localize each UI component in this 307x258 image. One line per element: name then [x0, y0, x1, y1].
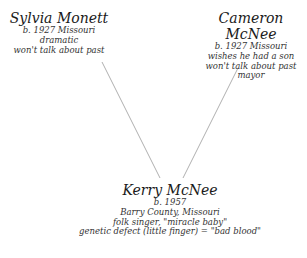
person-detail: genetic defect (little finger) = "bad bl…: [70, 227, 270, 237]
edge-cameron-to-kerry: [183, 68, 238, 178]
person-node-sylvia: Sylvia Monett b. 1927 Missouri dramatic …: [0, 10, 118, 55]
edge-sylvia-to-kerry: [102, 62, 160, 178]
person-node-kerry: Kerry McNee b. 1957 Barry County, Missou…: [70, 182, 270, 237]
person-name: Sylvia Monett: [0, 10, 118, 26]
person-detail: won't talk about past: [0, 46, 118, 56]
person-detail: mayor: [195, 71, 307, 81]
person-name: Kerry McNee: [70, 182, 270, 198]
person-node-cameron: Cameron McNee b. 1927 Missouri wishes he…: [195, 10, 307, 81]
person-name: Cameron McNee: [195, 10, 307, 42]
